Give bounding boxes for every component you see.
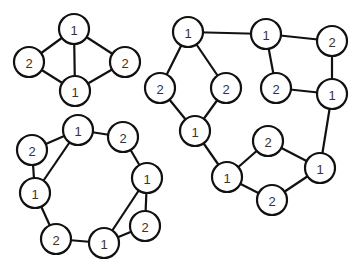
node-label: 1	[191, 125, 198, 140]
nodes-layer: 122112211221112222112112	[14, 14, 347, 258]
graph-node: 1	[60, 76, 90, 106]
node-label: 1	[143, 172, 150, 187]
graph-node: 1	[317, 79, 347, 109]
node-label: 2	[328, 35, 335, 50]
graph-node: 2	[14, 47, 44, 77]
graph-node: 2	[145, 73, 175, 103]
node-label: 2	[52, 233, 59, 248]
node-label: 2	[121, 56, 128, 71]
graph-node: 2	[261, 73, 291, 103]
node-label: 2	[25, 56, 32, 71]
node-label: 2	[28, 144, 35, 159]
graph-node: 2	[108, 122, 138, 152]
graph-node: 1	[173, 17, 203, 47]
graph-node: 2	[253, 126, 283, 156]
node-label: 1	[316, 162, 323, 177]
graph-node: 2	[110, 47, 140, 77]
node-label: 1	[184, 26, 191, 41]
graph-node: 1	[251, 19, 281, 49]
node-label: 2	[141, 220, 148, 235]
node-label: 2	[268, 194, 275, 209]
graph-node: 2	[257, 185, 287, 215]
node-label: 1	[328, 88, 335, 103]
node-label: 1	[74, 124, 81, 139]
node-label: 2	[222, 82, 229, 97]
node-label: 1	[71, 85, 78, 100]
graph-diagram: 122112211221112222112112	[0, 0, 363, 274]
node-label: 1	[100, 237, 107, 252]
node-label: 1	[262, 28, 269, 43]
node-label: 2	[119, 131, 126, 146]
graph-bottom-left-nodes: 12211221	[17, 115, 162, 258]
graph-node: 1	[20, 178, 50, 208]
node-label: 2	[156, 82, 163, 97]
graph-right-nodes: 112222112112	[145, 17, 347, 215]
node-label: 1	[31, 187, 38, 202]
node-label: 2	[264, 135, 271, 150]
graph-node: 1	[63, 115, 93, 145]
graph-node: 1	[180, 116, 210, 146]
graph-node: 1	[212, 162, 242, 192]
graph-node: 2	[17, 135, 47, 165]
graph-node: 1	[89, 228, 119, 258]
graph-node: 2	[317, 26, 347, 56]
node-label: 1	[223, 171, 230, 186]
graph-node: 1	[132, 163, 162, 193]
graph-node: 1	[59, 14, 89, 44]
node-label: 2	[272, 82, 279, 97]
graph-node: 2	[130, 211, 160, 241]
graph-top-left-nodes: 1221	[14, 14, 140, 106]
graph-node: 2	[211, 73, 241, 103]
node-label: 1	[70, 23, 77, 38]
graph-node: 1	[305, 153, 335, 183]
graph-node: 2	[41, 224, 71, 254]
